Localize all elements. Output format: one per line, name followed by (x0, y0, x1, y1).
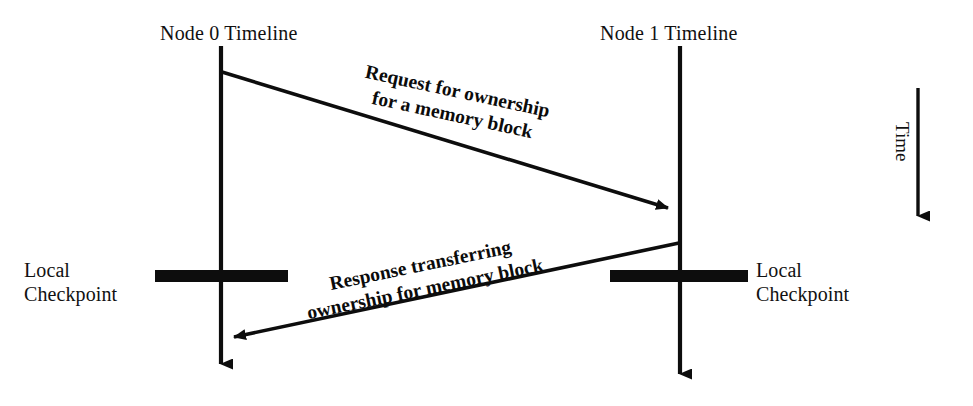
node0-timeline-label: Node 0 Timeline (160, 22, 297, 45)
checkpoint-label-node1: Local Checkpoint (756, 258, 849, 306)
time-axis-label: Time (891, 122, 913, 161)
checkpoint-label-node0-line2: Checkpoint (24, 282, 117, 306)
checkpoint-label-node1-line1: Local (756, 258, 849, 282)
message-sequence-diagram: Node 0 Timeline Node 1 Timeline Local Ch… (0, 0, 973, 406)
checkpoint-label-node0: Local Checkpoint (24, 258, 117, 306)
checkpoint-label-node1-line2: Checkpoint (756, 282, 849, 306)
checkpoint-bar-node0 (155, 270, 288, 282)
checkpoint-label-node0-line1: Local (24, 258, 117, 282)
diagram-canvas (0, 0, 973, 406)
checkpoint-bar-node1 (610, 270, 748, 282)
node1-timeline-label: Node 1 Timeline (600, 22, 737, 45)
